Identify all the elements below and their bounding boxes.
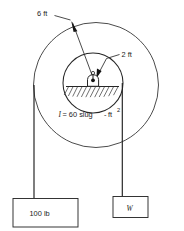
inertia-separator: - xyxy=(104,110,107,119)
outer-radius-leader xyxy=(55,16,71,21)
inertia-unit: ft xyxy=(108,110,112,119)
pulley-figure: 6 ft 2 ft I = 60 slug - ft 2 100 lb W xyxy=(0,0,184,231)
right-block-label: W xyxy=(127,204,134,213)
ground-hatching xyxy=(64,87,118,97)
figure-canvas: 6 ft 2 ft I = 60 slug - ft 2 100 lb W xyxy=(0,0,184,231)
axle-center-dot xyxy=(91,78,95,82)
inner-radius-leader xyxy=(107,55,120,59)
axle-top-ring xyxy=(91,71,94,74)
inertia-exponent: 2 xyxy=(117,107,120,113)
inertia-symbol: I xyxy=(58,110,62,119)
left-block-label: 100 lb xyxy=(30,209,50,218)
outer-radius-label: 6 ft xyxy=(37,9,47,18)
inertia-value: = 60 slug xyxy=(63,110,93,119)
outer-radius-arrowhead xyxy=(71,21,77,32)
moment-of-inertia-label: I = 60 slug - ft 2 xyxy=(58,107,121,118)
inner-radius-label: 2 ft xyxy=(122,50,132,59)
